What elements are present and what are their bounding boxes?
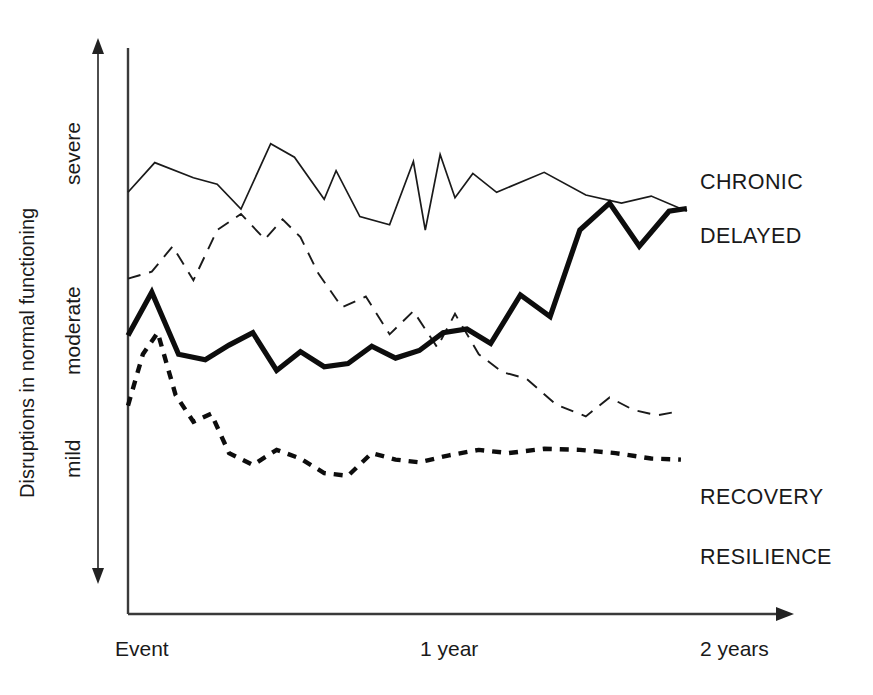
series-line-recovery bbox=[128, 214, 675, 417]
series-label-resilience: RESILIENCE bbox=[700, 545, 832, 569]
arrow-right-icon bbox=[776, 607, 794, 621]
arrow-up-icon bbox=[92, 38, 104, 54]
x-tick-label-one-year: 1 year bbox=[420, 637, 478, 660]
series-label-recovery: RECOVERY bbox=[700, 485, 823, 509]
series-group bbox=[128, 144, 687, 476]
arrow-down-icon bbox=[92, 568, 104, 584]
chart-container: Disruptions in normal functioning severe… bbox=[0, 0, 873, 695]
x-tick-label-two-years: 2 years bbox=[700, 637, 769, 660]
y-level-label-severe: severe bbox=[61, 122, 84, 185]
y-level-label-moderate: moderate bbox=[61, 286, 84, 375]
series-label-chronic: CHRONIC bbox=[700, 170, 803, 194]
chart-axes bbox=[128, 48, 794, 621]
series-line-delayed bbox=[128, 203, 687, 370]
x-tick-label-event: Event bbox=[115, 637, 169, 660]
y-level-label-mild: mild bbox=[61, 439, 84, 478]
series-label-delayed: DELAYED bbox=[700, 224, 802, 248]
y-axis-range-arrow bbox=[92, 38, 104, 584]
trajectory-line-chart: Disruptions in normal functioning severe… bbox=[0, 0, 873, 695]
series-line-chronic bbox=[128, 144, 687, 230]
y-axis-title: Disruptions in normal functioning bbox=[16, 208, 38, 498]
